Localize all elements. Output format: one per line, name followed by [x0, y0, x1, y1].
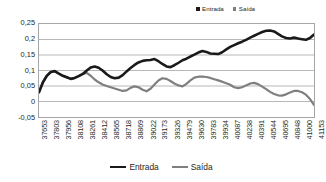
legend-top: EntradaSaída: [196, 3, 255, 15]
x-axis-tick-label: 39934: [222, 120, 229, 140]
series-line-entrada: [39, 31, 314, 93]
legend-item-label: Saída: [239, 6, 255, 12]
x-axis-tick-label: 40238: [246, 120, 253, 140]
square-marker-icon: [233, 7, 237, 11]
x-axis-labels: 3765337803379563810838261384123856538718…: [38, 120, 315, 160]
y-axis-tick-label: 0,15: [0, 51, 35, 58]
y-axis-tick-label: 0,1: [0, 67, 35, 74]
legend-item[interactable]: Entrada: [196, 6, 224, 12]
x-axis-tick-label: 39783: [210, 120, 217, 140]
x-axis-tick-label: 37956: [65, 120, 72, 140]
y-axis-tick-label: -0,05: [0, 114, 35, 121]
legend-item[interactable]: Entrada: [110, 163, 158, 171]
legend-bottom: EntradaSaída: [0, 163, 323, 171]
legend-item-label: Saída: [191, 163, 213, 171]
x-axis-tick-label: 39630: [198, 120, 205, 140]
y-axis-tick-label: 0,05: [0, 83, 35, 90]
x-axis-tick-label: 40391: [258, 120, 265, 140]
legend-item-label: Entrada: [202, 6, 224, 12]
x-axis-tick-label: 38108: [77, 120, 84, 140]
y-axis-tick-label: 0,25: [0, 19, 35, 26]
legend-item[interactable]: Saída: [172, 163, 213, 171]
x-axis-tick-label: 40544: [270, 120, 277, 140]
x-axis-tick-label: 38718: [125, 120, 132, 140]
y-axis-tick-label: 0,2: [0, 35, 35, 42]
x-axis-tick-label: 39022: [150, 120, 157, 140]
legend-item[interactable]: Saída: [233, 6, 255, 12]
x-axis-tick-label: 39326: [174, 120, 181, 140]
y-axis-labels: 0,250,20,150,10,050-0,05: [0, 23, 35, 118]
x-axis-tick-label: 38565: [113, 120, 120, 140]
x-axis-tick-label: 40087: [234, 120, 241, 140]
line-marker-icon: [110, 166, 126, 168]
line-marker-icon: [172, 166, 188, 168]
x-axis-tick-label: 40848: [294, 120, 301, 140]
plot-area: [38, 23, 315, 118]
x-axis-tick-label: 38869: [137, 120, 144, 140]
x-axis-tick-label: 38261: [89, 120, 96, 140]
x-axis-tick-label: 37653: [41, 120, 48, 140]
x-axis-tick-label: 39173: [161, 120, 168, 140]
x-axis-tick-label: 41000: [306, 120, 313, 140]
legend-item-label: Entrada: [129, 163, 158, 171]
series-lines: [39, 24, 314, 117]
square-marker-icon: [196, 7, 200, 11]
x-axis-tick-label: 38412: [101, 120, 108, 140]
x-axis-tick-label: 37803: [53, 120, 60, 140]
x-axis-tick-label: 39479: [186, 120, 193, 140]
y-axis-tick-label: 0: [0, 98, 35, 105]
x-axis-tick-label: 41153: [318, 120, 325, 139]
x-axis-tick-label: 40695: [282, 120, 289, 140]
